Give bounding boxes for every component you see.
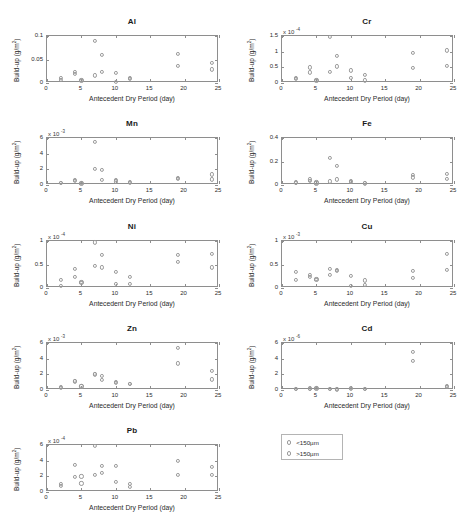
- x-tick-label: 25: [215, 494, 222, 500]
- x-tick-label: 5: [314, 187, 317, 193]
- y-tick: [281, 185, 284, 186]
- data-point: [59, 78, 63, 82]
- data-point: [100, 168, 104, 172]
- x-tick: [420, 137, 421, 140]
- x-tick: [420, 284, 421, 287]
- x-tick-label: 0: [44, 85, 47, 91]
- x-tick: [219, 386, 220, 389]
- x-tick-label: 5: [314, 290, 317, 296]
- x-tick-label: 15: [146, 494, 153, 500]
- x-tick-label: 0: [44, 290, 47, 296]
- x-axis-label: Antecedent Dry Period (day): [281, 300, 453, 307]
- x-tick: [385, 181, 386, 184]
- data-point: [114, 381, 118, 385]
- x-tick: [81, 488, 82, 491]
- x-tick: [150, 386, 151, 389]
- y-tick: [281, 390, 284, 391]
- x-tick: [420, 35, 421, 38]
- data-point: [411, 359, 415, 363]
- x-tick-label: 0: [279, 290, 282, 296]
- x-tick-label: 10: [346, 392, 353, 398]
- data-point: [294, 278, 298, 282]
- y-tick-label: 1: [20, 237, 43, 243]
- y-axis-label: Build-up (g/m2): [12, 39, 20, 82]
- y-tick: [450, 36, 453, 37]
- data-point: [314, 277, 318, 281]
- y-axis-label: Build-up (g/m2): [12, 244, 20, 287]
- y-axis-label: Build-up (g/m2): [12, 346, 20, 389]
- y-tick: [46, 169, 49, 170]
- y-axis-exponent: x 10 -3: [48, 129, 65, 137]
- x-tick: [316, 342, 317, 345]
- data-point: [100, 177, 104, 181]
- x-tick: [116, 342, 117, 345]
- data-point: [307, 178, 311, 182]
- x-axis-label: Antecedent Dry Period (day): [281, 95, 453, 102]
- y-tick: [215, 390, 218, 391]
- y-tick-label: 0: [20, 386, 43, 392]
- y-tick-label: 0: [20, 488, 43, 494]
- data-point: [59, 284, 63, 288]
- data-point: [210, 177, 214, 181]
- data-point: [362, 78, 366, 82]
- y-tick-label: 0: [255, 386, 278, 392]
- x-tick: [282, 181, 283, 184]
- data-point: [93, 372, 97, 376]
- data-point: [93, 473, 97, 477]
- y-tick: [215, 445, 218, 446]
- x-tick: [351, 342, 352, 345]
- x-tick: [454, 79, 455, 82]
- x-tick: [116, 488, 117, 491]
- x-tick: [420, 386, 421, 389]
- data-point: [335, 164, 339, 168]
- y-tick: [450, 162, 453, 163]
- data-point: [93, 140, 97, 144]
- y-tick: [281, 265, 284, 266]
- y-tick-label: 4: [20, 457, 43, 463]
- data-point: [210, 67, 214, 71]
- x-tick-label: 5: [314, 85, 317, 91]
- legend-label: >150µm: [296, 450, 319, 457]
- y-tick: [281, 138, 284, 139]
- y-tick: [215, 169, 218, 170]
- data-point: [100, 253, 104, 257]
- y-tick-label: 0.2: [255, 158, 278, 164]
- y-tick-label: 6: [20, 339, 43, 345]
- x-tick: [316, 35, 317, 38]
- x-tick: [150, 35, 151, 38]
- data-point: [362, 387, 366, 391]
- x-tick-label: 10: [346, 85, 353, 91]
- x-tick: [316, 240, 317, 243]
- data-point: [127, 77, 131, 81]
- y-tick-label: 0.1: [20, 32, 43, 38]
- data-point: [445, 268, 449, 272]
- data-point: [210, 464, 214, 468]
- plot-area: [46, 444, 218, 491]
- x-tick: [81, 35, 82, 38]
- x-tick: [47, 79, 48, 82]
- data-point: [127, 485, 131, 489]
- y-tick: [450, 343, 453, 344]
- y-tick: [281, 374, 284, 375]
- data-point: [328, 70, 332, 74]
- x-tick: [185, 240, 186, 243]
- plot-area: [281, 240, 453, 287]
- data-point: [335, 64, 339, 68]
- y-tick: [46, 359, 49, 360]
- data-point: [294, 269, 298, 273]
- data-point: [176, 52, 180, 56]
- subplot-ni: Nix 10 -4Build-up (g/m2)051015202500.51A…: [6, 222, 226, 311]
- x-tick-label: 15: [381, 392, 388, 398]
- data-point: [445, 172, 449, 176]
- y-tick: [46, 138, 49, 139]
- y-tick: [215, 241, 218, 242]
- x-tick-label: 20: [180, 494, 187, 500]
- data-point: [210, 265, 214, 269]
- y-tick: [46, 241, 49, 242]
- y-tick: [281, 52, 284, 53]
- data-point: [79, 481, 83, 485]
- x-tick: [454, 386, 455, 389]
- x-axis-label: Antecedent Dry Period (day): [46, 300, 218, 307]
- x-tick: [219, 181, 220, 184]
- plot-area: [281, 35, 453, 82]
